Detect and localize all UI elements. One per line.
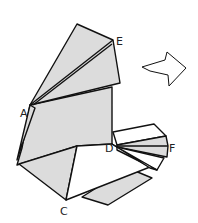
label-f: F xyxy=(169,142,175,155)
label-a: A xyxy=(20,107,28,120)
label-c: C xyxy=(60,205,68,218)
origami-diagram: E A C D F xyxy=(0,0,198,223)
turn-over-arrow-icon xyxy=(142,52,186,86)
label-d: D xyxy=(105,142,113,155)
label-e: E xyxy=(116,35,123,48)
